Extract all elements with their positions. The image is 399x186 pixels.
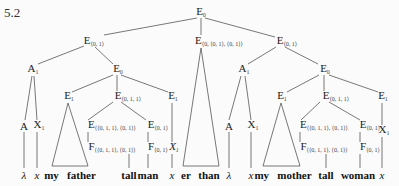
node-e1-left-b: E1 xyxy=(168,90,178,105)
leaf-tall-left: tall xyxy=(121,170,136,181)
edge xyxy=(95,47,113,64)
leaf-lambda-right: λ xyxy=(227,170,232,181)
node-e01b-left: E⟨0, 1⟩ xyxy=(148,119,168,134)
node-ecomp-right: E⟨⟨0, 1, 1⟩, ⟨0, 1⟩⟩ xyxy=(300,119,348,134)
leaf-x-left-2: x xyxy=(170,170,175,181)
edge xyxy=(287,75,319,92)
leaf-my-father: my father xyxy=(44,170,96,181)
leaf-lambda-left: λ xyxy=(22,170,27,181)
leaf-er: er xyxy=(181,170,191,181)
edge xyxy=(38,46,84,64)
node-a1-right: A1 xyxy=(239,63,250,78)
leaf-than: than xyxy=(198,170,219,181)
node-x1-left-c: X1 xyxy=(169,141,179,156)
edge xyxy=(285,47,318,64)
leaf-x-right: x xyxy=(249,170,254,181)
triangle-my-mother xyxy=(263,103,300,166)
edge xyxy=(121,102,146,120)
node-e0-left: E0 xyxy=(113,63,123,78)
node-fcomp-right: F⟨⟨0, 1, 1⟩, ⟨0, 1⟩⟩ xyxy=(300,141,347,156)
node-e011-right: E⟨0, 1, 1⟩ xyxy=(323,90,349,105)
node-e1-right-a: E1 xyxy=(277,90,287,105)
node-e01b-right: E⟨0, 1⟩ xyxy=(360,119,380,134)
node-e01-right: E⟨0, 1⟩ xyxy=(277,35,297,50)
node-x1-right: X1 xyxy=(248,119,259,134)
node-a1-left: A1 xyxy=(28,63,39,78)
node-a-left: A xyxy=(20,121,28,132)
node-e1-left-a: E1 xyxy=(64,90,74,105)
node-e0-right: E0 xyxy=(320,63,330,78)
edge xyxy=(104,18,197,35)
edge xyxy=(248,47,276,64)
node-fcomp-left: F⟨⟨0, 1, 1⟩, ⟨0, 1⟩⟩ xyxy=(88,141,135,156)
node-e1-right-b: E1 xyxy=(378,90,388,105)
node-x1-left: X1 xyxy=(34,119,45,134)
leaf-tall-right: tall xyxy=(318,170,333,181)
edge xyxy=(329,102,360,120)
node-ecomp-left: E⟨⟨0, 1, 1⟩, ⟨0, 1⟩⟩ xyxy=(88,119,136,134)
node-e-comparative: E⟨0, ⟨0, 1⟩, ⟨0, 1⟩⟩ xyxy=(195,35,243,50)
leaf-x-left: x xyxy=(35,170,40,181)
leaf-man: man xyxy=(138,170,159,181)
edge xyxy=(72,75,113,92)
triangle-er-than xyxy=(183,48,219,166)
leaf-woman: woman xyxy=(341,170,375,181)
node-a-right: A xyxy=(225,121,233,132)
leaf-x-right-2: x xyxy=(380,170,385,181)
leaf-my-mother: my mother xyxy=(254,170,311,181)
node-f01-right: F⟨0, 1⟩ xyxy=(360,141,380,156)
triangle-my-father xyxy=(52,103,88,166)
node-e011-left: E⟨0, 1, 1⟩ xyxy=(115,90,141,105)
node-root: E0 xyxy=(196,6,206,21)
node-e01-left: E⟨0, 1⟩ xyxy=(84,35,104,50)
edge xyxy=(25,76,32,120)
edge xyxy=(245,76,251,120)
edge xyxy=(229,76,241,120)
node-f01-left: F⟨0, 1⟩ xyxy=(148,141,168,156)
node-x1-right-b: X1 xyxy=(379,124,390,139)
edge xyxy=(34,76,37,120)
